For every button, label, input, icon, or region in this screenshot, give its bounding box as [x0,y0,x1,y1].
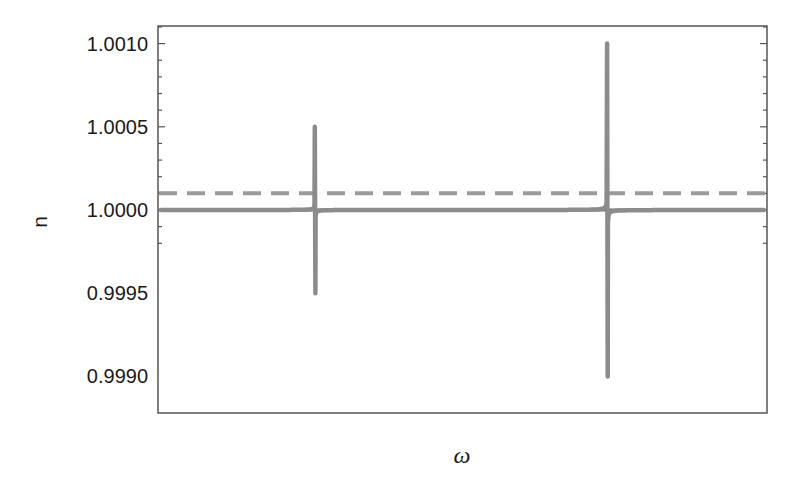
y-tick-label: 1.0000 [87,199,148,221]
refractive-index-chart: 1.00101.00051.00000.99950.9990 n ω [0,0,789,480]
y-tick-label: 1.0005 [87,116,148,138]
y-axis-label: n [28,216,51,228]
y-tick-label: 0.9990 [87,365,148,387]
x-axis-label: ω [454,442,471,468]
y-tick-label: 0.9995 [87,282,148,304]
y-tick-label: 1.0010 [87,33,148,55]
plot-frame [158,26,767,413]
y-axis-tick-labels: 1.00101.00051.00000.99950.9990 [87,33,148,388]
